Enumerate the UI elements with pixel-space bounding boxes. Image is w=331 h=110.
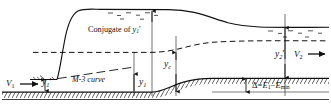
label-depth-y1: y1 — [139, 78, 146, 88]
m3-curve-text: M-3 curve — [72, 75, 105, 84]
conjugate-prime: ′ — [139, 25, 141, 34]
delta-emin-subscript: min — [281, 84, 290, 90]
label-critical-depth-yc: yc — [164, 60, 171, 70]
hydraulic-jump-profile — [57, 9, 100, 79]
label-conjugate-of-y1-prime: Conjugate of y1′ — [88, 26, 141, 35]
y2-prime-mark: ′ — [282, 49, 284, 59]
label-depth-y1-prime: y1′ — [42, 78, 52, 88]
label-m3-curve: M-3 curve — [72, 76, 105, 84]
flow-profile-figure: Conjugate of y1′ M-3 curve V1 V2 y1′ y1 … — [0, 0, 331, 110]
y1-subscript: 1 — [143, 81, 146, 88]
v1-subscript: 1 — [12, 83, 15, 89]
label-step-height-equation: Δ=E1−Emin — [252, 81, 290, 91]
y1-prime-mark: ′ — [49, 77, 51, 87]
conjugate-text: Conjugate of — [88, 25, 131, 34]
label-depth-y2-prime: y2′ — [275, 50, 285, 60]
water-surface-stipple-right — [268, 31, 322, 37]
v2-subscript: 2 — [300, 54, 303, 60]
water-surface-stipple-left — [108, 13, 158, 19]
yc-subscript: c — [168, 63, 171, 70]
label-velocity-v1: V1 — [6, 79, 15, 89]
label-velocity-v2: V2 — [294, 50, 303, 60]
